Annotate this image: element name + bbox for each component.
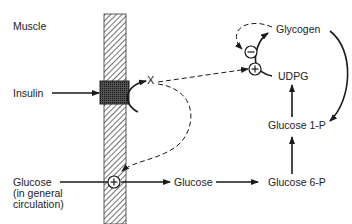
insulin-receptor <box>100 81 129 104</box>
glycogen-feedback-dashed-arrow <box>236 23 272 49</box>
udpg-label: UDPG <box>278 71 308 82</box>
glycogen-to-g1p-arrow <box>330 31 348 121</box>
x-to-transport-dashed-arrow <box>122 84 191 171</box>
insulin-label: Insulin <box>13 88 43 99</box>
x-to-synthase-dashed-arrow <box>158 69 248 82</box>
glucose-1p-label: Glucose 1-P <box>268 120 326 131</box>
receptor-to-x-arrow <box>128 81 146 112</box>
cell-membrane <box>104 14 126 224</box>
compartment-label: Muscle <box>13 21 46 32</box>
glycogen-label: Glycogen <box>276 24 320 35</box>
glucose-6p-label: Glucose 6-P <box>268 177 326 188</box>
glucose-label: Glucose <box>174 177 213 188</box>
glucose-circulation-line3: circulation) <box>13 199 64 210</box>
mediator-x-label: X <box>147 75 154 86</box>
